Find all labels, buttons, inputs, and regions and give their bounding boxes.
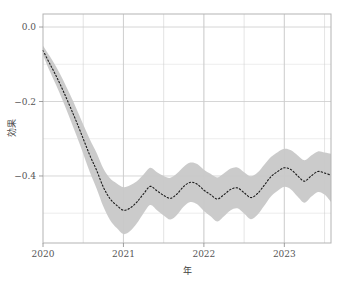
- x-tick-label: 2021: [112, 249, 135, 259]
- chart-figure: 2020202120222023 0.0−0.2−0.4 年 効果: [0, 0, 344, 281]
- x-tick-label: 2023: [273, 249, 296, 259]
- y-axis-ticks: 0.0−0.2−0.4: [14, 22, 43, 181]
- plot-background: [43, 14, 331, 243]
- y-tick-label: −0.4: [14, 171, 36, 181]
- y-tick-label: −0.2: [14, 97, 36, 107]
- x-axis-title: 年: [183, 265, 192, 276]
- x-tick-label: 2022: [192, 249, 215, 259]
- y-tick-label: 0.0: [22, 22, 37, 32]
- x-axis-ticks: 2020202120222023: [32, 243, 297, 259]
- x-tick-label: 2020: [32, 249, 55, 259]
- effect-over-time-chart: 2020202120222023 0.0−0.2−0.4 年 効果: [0, 0, 344, 281]
- y-axis-title: 効果: [6, 119, 17, 137]
